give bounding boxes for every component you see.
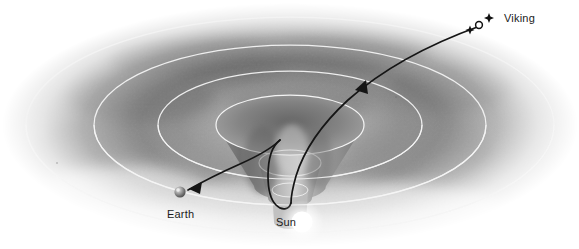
earth-highlight: [176, 188, 179, 191]
earth-body: [174, 186, 185, 197]
sun-label: Sun: [276, 217, 296, 228]
surface-speck-2: [56, 162, 58, 164]
earth-disk: [174, 186, 185, 197]
figure-canvas: [0, 0, 579, 249]
viking-marker-middle: [476, 22, 483, 29]
gravity-well-figure: Viking Earth Sun: [0, 0, 579, 249]
earth-label: Earth: [167, 209, 194, 220]
surface-speck: [395, 96, 397, 98]
viking-label: Viking: [504, 13, 535, 24]
